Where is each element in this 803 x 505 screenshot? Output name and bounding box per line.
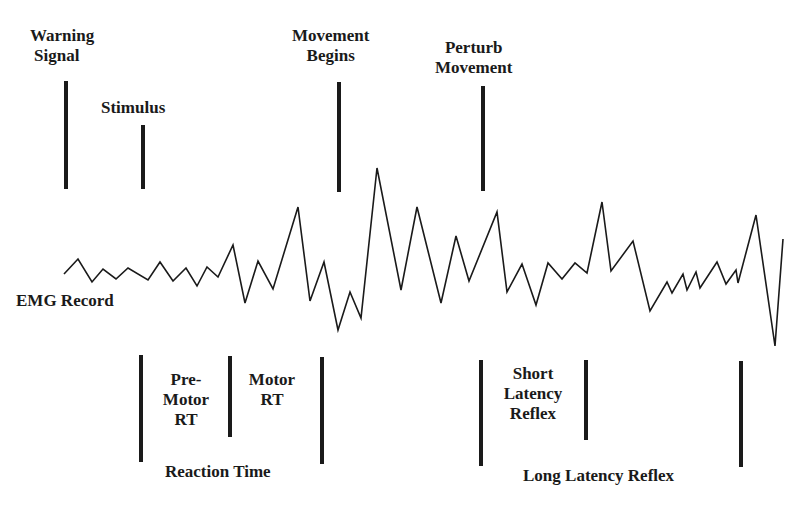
premotor-rt-label: Pre- Motor RT (156, 370, 216, 430)
reflex-start-marker (479, 360, 483, 466)
short-line-1: Short (493, 364, 573, 384)
short-latency-end-marker (584, 360, 588, 440)
motor-line-1: Motor (242, 370, 302, 390)
short-line-2: Latency (493, 384, 573, 404)
short-latency-label: Short Latency Reflex (493, 364, 573, 424)
premotor-line-2: Motor (156, 390, 216, 410)
reaction-start-marker (139, 355, 143, 462)
motor-rt-label: Motor RT (242, 370, 302, 410)
premotor-line-1: Pre- (156, 370, 216, 390)
motor-line-2: RT (242, 390, 302, 410)
emg-trace (0, 0, 803, 505)
emg-record-label: EMG Record (16, 291, 114, 311)
premotor-end-marker (228, 356, 232, 437)
long-latency-label: Long Latency Reflex (523, 466, 674, 486)
reaction-time-label: Reaction Time (165, 462, 271, 482)
short-line-3: Reflex (493, 404, 573, 424)
premotor-line-3: RT (156, 410, 216, 430)
long-latency-end-marker (739, 361, 743, 467)
reaction-end-marker (320, 357, 324, 464)
